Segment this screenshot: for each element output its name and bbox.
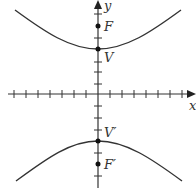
diagram-svg: y x F V V′ F′ [0,0,196,188]
vertex-v-point-icon [96,47,101,52]
vertex-v-label: V [104,50,115,65]
focus-f-prime-point-icon [96,162,101,167]
hyperbola-lower-branch [16,141,182,181]
vertex-v-prime-point-icon [96,139,101,144]
hyperbola-diagram: y x F V V′ F′ [0,0,196,188]
x-axis-label: x [189,98,196,113]
y-axis-label: y [103,0,112,13]
vertex-v-prime-label: V′ [104,125,116,140]
focus-f-prime-label: F′ [103,157,116,172]
y-axis-arrow-icon [94,0,102,9]
x-axis-arrow-icon [187,90,196,98]
focus-f-label: F [103,19,114,34]
focus-f-point-icon [96,24,101,29]
x-axis [8,90,196,98]
